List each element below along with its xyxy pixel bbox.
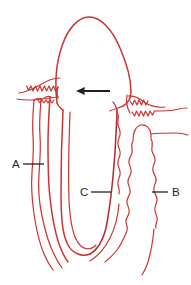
mid-wavy-ligament-edge	[117, 112, 120, 194]
pointer-arrow-group	[76, 87, 110, 95]
right-gingival-margin-group	[127, 95, 187, 116]
pointer-arrow-head	[76, 87, 85, 95]
figure-container: A C B	[0, 0, 191, 285]
left-gingiva-upper-contour	[19, 78, 60, 93]
tooth-root-left-border	[61, 110, 90, 255]
label-b: B	[172, 186, 180, 198]
left-gingival-margin-group	[17, 78, 60, 103]
right-gingiva-serrated-upper	[130, 100, 148, 105]
right-bone-bottom-tail	[105, 231, 127, 262]
right-bone-outline-group	[105, 125, 188, 275]
right-bone-inner-wavy-border	[151, 139, 157, 228]
tooth-cervical-left	[57, 103, 63, 110]
anatomy-illustration: A C B	[0, 0, 191, 285]
right-bone-top-shelf	[151, 133, 188, 135]
right-bone-left-wavy-border	[126, 141, 133, 230]
right-gingiva-lower-contour	[155, 108, 187, 111]
label-c: C	[80, 186, 88, 198]
left-gingiva-attachment	[57, 87, 58, 98]
right-gingiva-serrated-lower	[132, 111, 155, 116]
tooth-inner-dentin-line	[69, 112, 96, 249]
left-gingiva-serrated-line	[27, 86, 59, 91]
tooth-crown-outline	[56, 17, 131, 106]
right-bone-crest	[133, 125, 151, 140]
right-bone-inner-bottom-tail	[142, 229, 154, 275]
label-a: A	[12, 158, 20, 170]
